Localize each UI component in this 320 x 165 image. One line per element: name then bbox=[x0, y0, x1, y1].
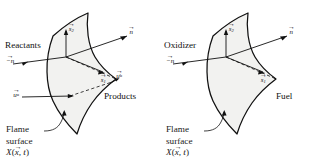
vector-label-u-burned: → ub bbox=[116, 70, 123, 80]
flame-surface-figure: Reactants Products → n → −n → s2 → s1 → … bbox=[0, 0, 320, 165]
vector-label-minus-n: → −n bbox=[166, 55, 174, 65]
caption-flame-surface: Flame surface X(→x, t) bbox=[166, 124, 193, 159]
vector-label-n: → n bbox=[128, 26, 135, 36]
vector-label-s1: → s1 bbox=[260, 74, 267, 85]
caption-line-1: Flame bbox=[166, 124, 193, 136]
vector-label-u-unburned: → uu bbox=[13, 89, 20, 99]
caption-line-1: Flame bbox=[6, 124, 33, 136]
caption-formula: X(→x, t) bbox=[6, 147, 33, 159]
vector-label-s2: → s2 bbox=[68, 23, 75, 34]
label-oxidizer: Oxidizer bbox=[164, 41, 196, 50]
caption-flame-surface: Flame surface X(→x, t) bbox=[6, 124, 33, 159]
label-fuel: Fuel bbox=[276, 92, 292, 101]
vector-label-s2: → s2 bbox=[228, 23, 235, 34]
caption-formula: X(→x, t) bbox=[166, 147, 193, 159]
label-reactants: Reactants bbox=[5, 41, 41, 50]
label-products: Products bbox=[104, 92, 136, 101]
vector-label-n: → n bbox=[288, 26, 295, 36]
vector-label-minus-n: → −n bbox=[6, 55, 14, 65]
vector-label-s1: → s1 bbox=[100, 74, 107, 85]
panel-non-premixed: Oxidizer Fuel → n → −n → s2 → s1 Flame s… bbox=[160, 0, 320, 165]
panel-premixed: Reactants Products → n → −n → s2 → s1 → … bbox=[0, 0, 160, 165]
